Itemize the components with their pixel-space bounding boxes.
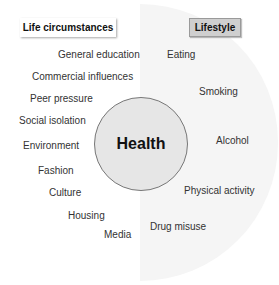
factor-social-isolation: Social isolation [19, 115, 86, 126]
lifestyle-label: Lifestyle [195, 22, 236, 33]
factor-alcohol: Alcohol [216, 135, 249, 146]
factor-drug-misuse: Drug misuse [150, 221, 206, 232]
factor-eating: Eating [167, 49, 195, 60]
health-label: Health [117, 135, 166, 153]
factor-housing: Housing [68, 210, 105, 221]
factor-culture: Culture [49, 187, 81, 198]
factor-media: Media [104, 229, 131, 240]
factor-general-education: General education [58, 49, 140, 60]
factor-fashion: Fashion [38, 165, 74, 176]
life-circumstances-label: Life circumstances [23, 22, 114, 33]
factor-physical-activity: Physical activity [184, 185, 255, 196]
factor-smoking: Smoking [199, 86, 238, 97]
health-circle: Health [94, 97, 188, 191]
lifestyle-heading: Lifestyle [189, 18, 241, 37]
factor-peer-pressure: Peer pressure [30, 93, 93, 104]
factor-commercial-influences: Commercial influences [32, 71, 133, 82]
life-circumstances-heading: Life circumstances [20, 18, 116, 37]
factor-environment: Environment [23, 140, 79, 151]
